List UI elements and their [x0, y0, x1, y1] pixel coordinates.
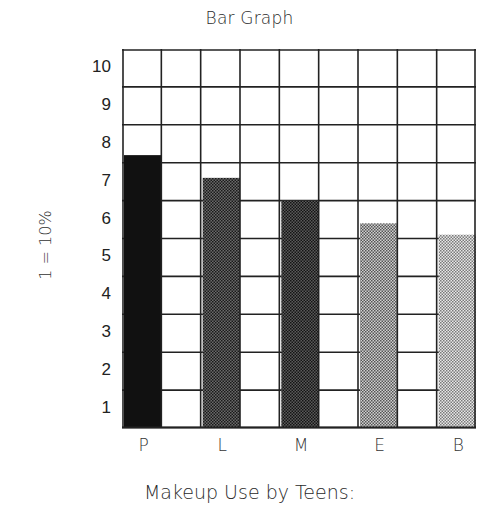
y-tick-8: 8	[81, 133, 111, 153]
x-tick-E: E	[374, 435, 385, 455]
y-tick-10: 10	[81, 57, 111, 77]
x-tick-B: B	[453, 435, 464, 455]
y-tick-7: 7	[81, 171, 111, 191]
bar-B	[439, 235, 476, 428]
x-tick-L: L	[218, 435, 227, 455]
y-tick-5: 5	[81, 246, 111, 266]
y-tick-2: 2	[81, 360, 111, 380]
x-tick-M: M	[294, 435, 309, 455]
y-tick-1: 1	[81, 398, 111, 418]
chart-title: Bar Graph	[0, 8, 499, 28]
plot-grid	[122, 49, 476, 428]
plot-area	[122, 49, 476, 429]
y-tick-4: 4	[81, 284, 111, 304]
bar-P	[124, 155, 161, 428]
y-tick-6: 6	[81, 209, 111, 229]
y-tick-3: 3	[81, 322, 111, 342]
y-axis-label: 1 = 10%	[36, 210, 55, 279]
y-tick-9: 9	[81, 95, 111, 115]
bar-E	[360, 223, 397, 428]
x-tick-P: P	[139, 435, 149, 455]
chart-caption: Makeup Use by Teens:	[0, 481, 499, 503]
bar-M	[281, 201, 318, 428]
bar-L	[203, 178, 240, 428]
